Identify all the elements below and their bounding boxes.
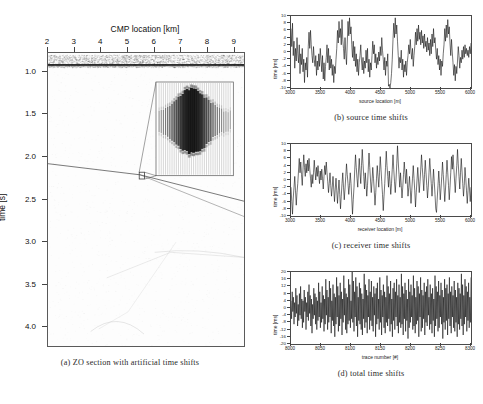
bSvg-ytick-mark <box>287 22 290 23</box>
cSvg-ytick-mark <box>287 215 290 216</box>
cSvg-ytick-mark <box>287 150 290 151</box>
panel-d-total-time-shifts: 8000805081008150820082508300-20-16-12-8-… <box>262 262 480 362</box>
panel-a-ytick-label: 3.5 <box>10 279 36 288</box>
dSvg-ytick-mark <box>287 300 290 301</box>
caption-a: (a) ZO section with artificial time shif… <box>6 358 254 367</box>
bSvg-ytick-mark <box>287 87 290 88</box>
panel-c-xaxis-label: receiver location [m] <box>290 226 470 232</box>
panel-a-ytick-label: 1.0 <box>10 66 36 75</box>
dSvg-ytick-mark <box>287 307 290 308</box>
panel-a-xtick-label: 9 <box>231 37 235 46</box>
dSvg-ytick-mark <box>287 314 290 315</box>
cSvg-ytick-mark <box>287 157 290 158</box>
dSvg-ytick-mark <box>287 271 290 272</box>
bSvg-xtick-label: 3500 <box>315 90 325 95</box>
bSvg-ytick-mark <box>287 44 290 45</box>
panel-a-xtick-label: 8 <box>205 37 209 46</box>
panel-a-yaxis-label: time [s] <box>0 194 7 221</box>
cSvg-series <box>291 146 471 214</box>
cSvg-ytick-label: 0 <box>268 177 286 182</box>
bSvg-ytick-mark <box>287 65 290 66</box>
bSvg-ytick-label: 6 <box>268 27 286 32</box>
cSvg-ytick-mark <box>287 193 290 194</box>
cSvg-ytick-mark <box>287 186 290 187</box>
panel-a-ytick-label: 1.5 <box>10 109 36 118</box>
panel-b-source-time-shifts: 3000350040004500500055006000-10-8-6-4-20… <box>262 6 480 106</box>
panel-b-yaxis-label: time [ms] <box>272 59 278 79</box>
panel-a-diffraction-smile <box>91 321 144 334</box>
dSvg-ytick-mark <box>287 329 290 330</box>
cSvg-ytick-mark <box>287 165 290 166</box>
cSvg-ytick-label: 4 <box>268 162 286 167</box>
dSvg-xtick-label: 8100 <box>345 346 355 351</box>
panel-c-line-canvas <box>291 144 471 216</box>
panel-a-ytick-label: 2.0 <box>10 151 36 160</box>
cSvg-ytick-mark <box>287 172 290 173</box>
dSvg-ytick-label: 4 <box>268 297 286 302</box>
dSvg-xtick-label: 8250 <box>435 346 445 351</box>
dSvg-xtick-label: 8300 <box>465 346 475 351</box>
figure-root: CMP location [km] 23456789 1.01.52.02.53… <box>0 0 483 404</box>
panel-a-zo-section: CMP location [km] 23456789 1.01.52.02.53… <box>6 6 254 378</box>
panel-a-xtick-label: 2 <box>45 37 49 46</box>
panel-b-plot-area <box>290 15 472 89</box>
caption-c: (c) receiver time shifts <box>262 241 480 250</box>
panel-a-ytick-label: 2.5 <box>10 194 36 203</box>
cSvg-ytick-label: 8 <box>268 148 286 153</box>
cSvg-ytick-mark <box>287 179 290 180</box>
panel-c-plot-area <box>290 143 472 217</box>
cSvg-ytick-mark <box>287 143 290 144</box>
panel-a-seafloor-shadow <box>48 66 244 67</box>
panel-a-ytick-label: 3.0 <box>10 237 36 246</box>
bSvg-ytick-label: -10 <box>268 85 286 90</box>
dSvg-ytick-mark <box>287 343 290 344</box>
dSvg-ytick-label: 8 <box>268 290 286 295</box>
panel-d-yaxis-label: time [ms] <box>272 315 278 335</box>
cSvg-xtick-label: 3000 <box>285 218 295 223</box>
cSvg-xtick-label: 4500 <box>375 218 385 223</box>
bSvg-xtick-label: 4000 <box>345 90 355 95</box>
panel-c-receiver-time-shifts: 3000350040004500500055006000-10-8-6-4-20… <box>262 134 480 234</box>
cSvg-ytick-mark <box>287 208 290 209</box>
bSvg-xtick-label: 5000 <box>405 90 415 95</box>
panel-a-seafloor-reflector <box>48 64 244 66</box>
panel-a-seismic-canvas <box>48 53 244 346</box>
bSvg-ytick-mark <box>287 51 290 52</box>
cSvg-ytick-label: 10 <box>268 141 286 146</box>
dSvg-ytick-mark <box>287 336 290 337</box>
cSvg-xtick-label: 3500 <box>315 218 325 223</box>
bSvg-series <box>291 18 471 88</box>
panel-a-ytick-label: 4.0 <box>10 322 36 331</box>
cSvg-ytick-label: 6 <box>268 155 286 160</box>
panel-d-xaxis-label: trace number [#] <box>290 354 470 360</box>
caption-d: (d) total time shifts <box>262 369 480 378</box>
dSvg-ytick-mark <box>287 285 290 286</box>
panel-d-plot-area <box>290 271 472 345</box>
dSvg-xtick-label: 8150 <box>375 346 385 351</box>
dSvg-ytick-label: 0 <box>268 305 286 310</box>
dSvg-ytick-mark <box>287 293 290 294</box>
bSvg-xtick-label: 5500 <box>435 90 445 95</box>
dSvg-ytick-mark <box>287 278 290 279</box>
panel-a-xtick-label: 7 <box>178 37 182 46</box>
panel-d-line-canvas <box>291 272 471 344</box>
cSvg-xtick-label: 4000 <box>345 218 355 223</box>
bSvg-ytick-label: 8 <box>268 20 286 25</box>
panel-a-plot-area <box>47 52 245 347</box>
dSvg-ytick-mark <box>287 321 290 322</box>
dSvg-xtick-label: 8000 <box>285 346 295 351</box>
panel-a-inset-connectors <box>139 82 156 179</box>
dSvg-ytick-label: -20 <box>268 341 286 346</box>
panel-a-xtick-label: 6 <box>151 37 155 46</box>
cSvg-xtick-label: 5500 <box>435 218 445 223</box>
bSvg-ytick-mark <box>287 80 290 81</box>
dSvg-ytick-label: 16 <box>268 276 286 281</box>
panel-c-yaxis-label: time [ms] <box>272 187 278 207</box>
panel-a-xaxis-label: CMP location [km] <box>47 24 243 34</box>
bSvg-xtick-label: 6000 <box>465 90 475 95</box>
bSvg-ytick-label: 2 <box>268 41 286 46</box>
panel-a-xtick-label: 3 <box>71 37 75 46</box>
cSvg-xtick-label: 5000 <box>405 218 415 223</box>
bSvg-ytick-label: 4 <box>268 34 286 39</box>
bSvg-xtick-label: 4500 <box>375 90 385 95</box>
